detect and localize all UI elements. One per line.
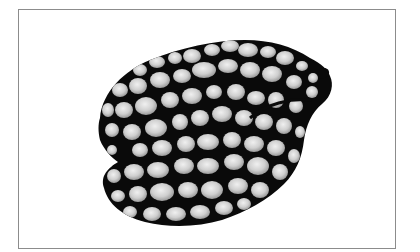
shell-photo [0,0,420,252]
shell-body [99,40,332,226]
